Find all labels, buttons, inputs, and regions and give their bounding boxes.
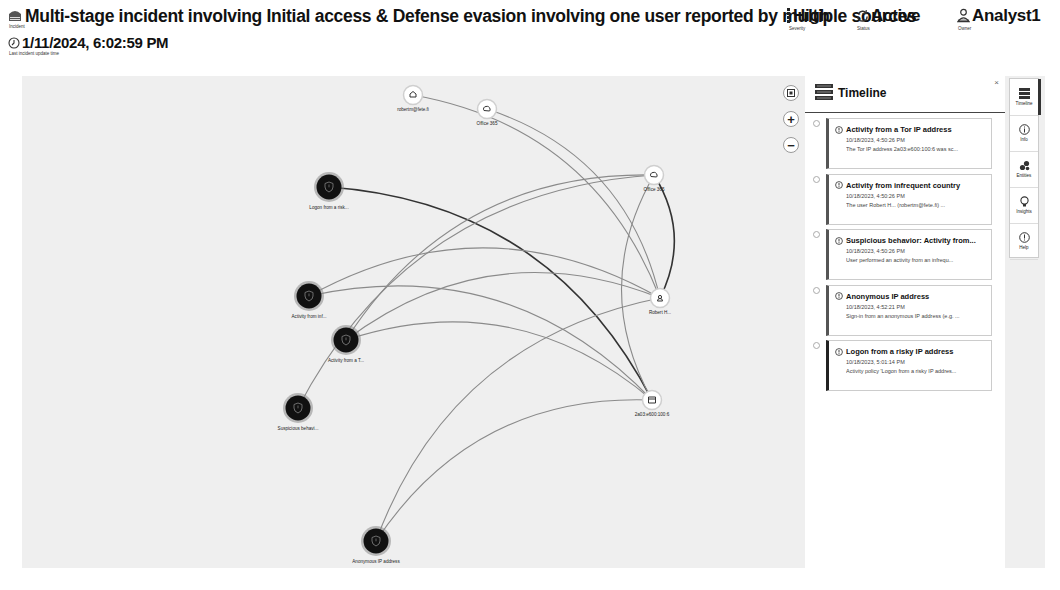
status-icon xyxy=(856,8,869,23)
alert-shield-icon xyxy=(835,348,843,356)
fit-view-icon xyxy=(787,89,795,97)
graph-edge[interactable] xyxy=(346,322,652,400)
incident-graph[interactable]: Logon from a risk...Activity from inf...… xyxy=(22,76,805,568)
timeline-dot xyxy=(813,176,820,183)
graph-edge[interactable] xyxy=(298,175,654,408)
timeline-card-title-text: Activity from infrequent country xyxy=(846,181,960,190)
graph-node-user[interactable]: Robert H... xyxy=(649,289,671,316)
severity-icon xyxy=(787,8,791,23)
graph-node-label: Logon from a risk... xyxy=(309,205,348,210)
owner-icon xyxy=(957,8,970,23)
timeline-title: Timeline xyxy=(838,86,886,100)
graph-node-label: Office 365 xyxy=(644,187,665,192)
zoom-in-button[interactable]: + xyxy=(783,111,799,127)
graph-edge[interactable] xyxy=(376,400,652,541)
owner: Analyst1 xyxy=(957,6,1040,26)
last-update-label: Last incident update time xyxy=(9,51,59,56)
last-update-value: 1/11/2024, 6:02:59 PM xyxy=(22,34,168,51)
severity-label: Severity xyxy=(789,26,805,31)
timeline-header: Timeline × xyxy=(805,76,1005,113)
graph-node-alert[interactable]: Suspicious behavi... xyxy=(278,393,319,431)
rail-item-insights[interactable]: Insights xyxy=(1010,187,1038,224)
timeline-card[interactable]: Suspicious behavior: Activity from...10/… xyxy=(826,229,992,280)
timeline-card-title: Logon from a risky IP address xyxy=(835,347,987,356)
incident-title: Multi-stage incident involving Initial a… xyxy=(8,6,917,27)
info-icon xyxy=(1019,124,1030,135)
status: Active xyxy=(856,6,920,26)
rail-item-label: Entities xyxy=(1017,173,1032,178)
timeline-card[interactable]: Activity from infrequent country10/18/20… xyxy=(826,174,992,225)
graph-edge[interactable] xyxy=(621,175,654,400)
alert-shield-icon xyxy=(835,181,843,189)
graph-edge[interactable] xyxy=(329,187,652,400)
alert-shield-icon xyxy=(835,237,843,245)
graph-edge[interactable] xyxy=(654,175,674,298)
timeline-card-date: 10/18/2023, 4:50:26 PM xyxy=(846,193,987,199)
fit-view-button[interactable] xyxy=(783,85,799,101)
lightbulb-icon xyxy=(1019,196,1030,207)
timeline-dot xyxy=(813,287,820,294)
graph-node-mailbox[interactable]: robertm@fete.fi xyxy=(397,86,429,113)
incident-graph-canvas[interactable]: Logon from a risk...Activity from inf...… xyxy=(22,76,805,568)
timeline-header-icon xyxy=(815,84,833,101)
help-icon xyxy=(1019,232,1030,243)
status-value: Active xyxy=(871,6,920,26)
rail-item-label: Help xyxy=(1019,245,1028,250)
close-panel-button[interactable]: × xyxy=(994,78,999,87)
rail-item-label: Info xyxy=(1020,137,1028,142)
last-update: 1/11/2024, 6:02:59 PM xyxy=(8,34,168,51)
graph-edge[interactable] xyxy=(487,109,660,298)
incident-title-text: Multi-stage incident involving Initial a… xyxy=(25,6,917,27)
rail-item-timeline[interactable]: Timeline xyxy=(1010,79,1038,116)
timeline-card[interactable]: Anonymous IP address10/18/2023, 4:52:21 … xyxy=(826,285,992,336)
graph-node-alert[interactable]: Anonymous IP address xyxy=(352,526,400,564)
graph-node-ip[interactable]: 2a03:e600:100:6 xyxy=(635,391,670,418)
clock-icon xyxy=(8,37,20,49)
rail-item-help[interactable]: Help xyxy=(1010,223,1038,260)
timeline-icon xyxy=(1019,88,1030,99)
severity: High xyxy=(787,6,830,26)
timeline-dot xyxy=(813,342,820,349)
timeline-card-date: 10/18/2023, 4:50:26 PM xyxy=(846,137,987,143)
owner-value: Analyst1 xyxy=(972,6,1040,26)
graph-node-label: Robert H... xyxy=(649,310,671,315)
timeline-card-title: Suspicious behavior: Activity from... xyxy=(835,236,987,245)
timeline-card-title: Activity from a Tor IP address xyxy=(835,125,987,134)
graph-edge[interactable] xyxy=(346,175,654,340)
graph-node-alert[interactable]: Activity from inf... xyxy=(292,281,327,319)
timeline-card-title-text: Activity from a Tor IP address xyxy=(846,125,952,134)
graph-node-cloud-app[interactable]: Office 365 xyxy=(477,100,498,127)
alert-shield-icon xyxy=(835,292,843,300)
zoom-out-button[interactable]: − xyxy=(783,137,799,153)
graph-node-label: Anonymous IP address xyxy=(352,559,400,564)
graph-node-cloud-app[interactable]: Office 365 xyxy=(644,166,665,193)
entities-icon xyxy=(1019,160,1030,171)
alert-shield-icon xyxy=(835,126,843,134)
timeline-card-date: 10/18/2023, 4:52:21 PM xyxy=(846,304,987,310)
timeline-card-title-text: Anonymous IP address xyxy=(846,292,929,301)
graph-edge[interactable] xyxy=(309,248,660,298)
side-rail-menu: TimelineInfoEntitiesInsightsHelp xyxy=(1009,78,1039,258)
graph-node-label: Activity from inf... xyxy=(292,314,327,319)
graph-node-label: Activity from a T... xyxy=(328,358,364,363)
rail-item-entities[interactable]: Entities xyxy=(1010,151,1038,188)
graph-edge[interactable] xyxy=(376,298,660,541)
timeline-card-title: Activity from infrequent country xyxy=(835,181,987,190)
graph-edge[interactable] xyxy=(346,273,660,340)
timeline-dot xyxy=(813,120,820,127)
timeline-card[interactable]: Activity from a Tor IP address10/18/2023… xyxy=(826,118,992,169)
status-label: Status xyxy=(857,26,870,31)
timeline-dot xyxy=(813,231,820,238)
graph-node-label: robertm@fete.fi xyxy=(397,107,429,112)
graph-node-alert[interactable]: Logon from a risk... xyxy=(309,172,348,210)
timeline-card-title-text: Logon from a risky IP address xyxy=(846,347,953,356)
rail-item-label: Timeline xyxy=(1016,101,1033,106)
timeline-card-title-text: Suspicious behavior: Activity from... xyxy=(846,236,976,245)
owner-label: Owner xyxy=(958,26,971,31)
graph-node-label: 2a03:e600:100:6 xyxy=(635,412,670,417)
timeline-card[interactable]: Logon from a risky IP address10/18/2023,… xyxy=(826,340,992,391)
rail-item-label: Insights xyxy=(1016,209,1032,214)
rail-item-info[interactable]: Info xyxy=(1010,115,1038,152)
timeline-card-summary: Activity policy 'Logon from a risky IP a… xyxy=(846,368,991,374)
timeline-card-summary: The Tor IP address 2a03:e600:100:6 was s… xyxy=(846,146,991,152)
